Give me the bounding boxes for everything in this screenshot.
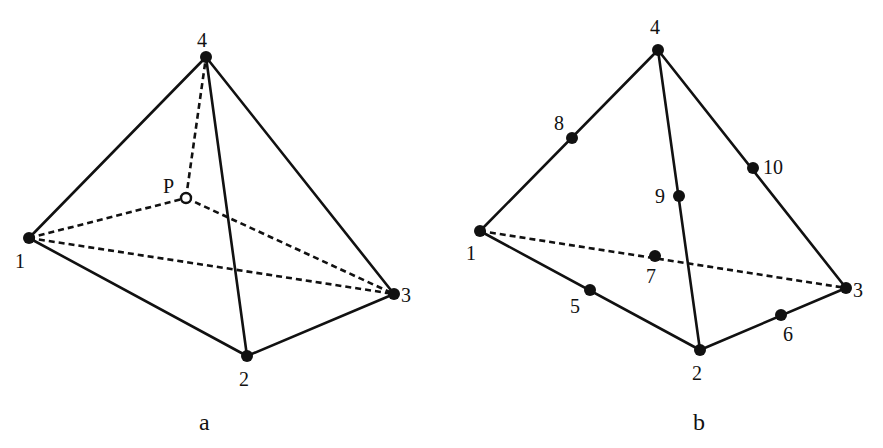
label-node-3: 3 [401, 284, 411, 306]
label-node-4: 4 [197, 29, 207, 51]
label-node-9: 9 [655, 185, 665, 207]
label-node-1: 1 [15, 250, 25, 272]
node-1 [474, 225, 486, 237]
label-node-4: 4 [650, 16, 660, 38]
edge-1-p-dashed [29, 198, 186, 238]
point-p-hollow [181, 193, 191, 203]
label-node-10: 10 [763, 156, 783, 178]
node-5 [584, 284, 596, 296]
node-4 [200, 51, 212, 63]
label-node-1: 1 [466, 242, 476, 264]
edge-p-3-dashed [186, 198, 394, 294]
node-4 [652, 44, 664, 56]
label-node-2: 2 [692, 362, 702, 384]
label-node-6: 6 [783, 323, 793, 345]
label-node-5: 5 [570, 295, 580, 317]
node-6 [775, 309, 787, 321]
tetrahedron-figure: 4 1 3 2 P a 4 1 3 2 5 6 7 8 9 10 [0, 0, 883, 448]
edge-2-3 [700, 288, 846, 350]
node-7 [649, 250, 661, 262]
label-node-8: 8 [554, 112, 564, 134]
edge-1-3-dashed [29, 238, 394, 294]
node-9 [673, 190, 685, 202]
node-3 [840, 282, 852, 294]
node-2 [694, 344, 706, 356]
edge-p-4-dashed [186, 57, 206, 198]
edge-2-3 [247, 294, 394, 356]
caption-b: b [693, 409, 705, 435]
node-3 [388, 288, 400, 300]
panel-a: 4 1 3 2 P a [15, 29, 411, 435]
label-point-p: P [163, 175, 174, 197]
label-node-7: 7 [646, 265, 656, 287]
node-1 [23, 232, 35, 244]
edge-1-4 [29, 57, 206, 238]
panel-b: 4 1 3 2 5 6 7 8 9 10 b [466, 16, 863, 435]
node-10 [747, 162, 759, 174]
node-8 [566, 132, 578, 144]
label-node-3: 3 [853, 279, 863, 301]
caption-a: a [199, 409, 210, 435]
label-node-2: 2 [239, 368, 249, 390]
node-2 [241, 350, 253, 362]
